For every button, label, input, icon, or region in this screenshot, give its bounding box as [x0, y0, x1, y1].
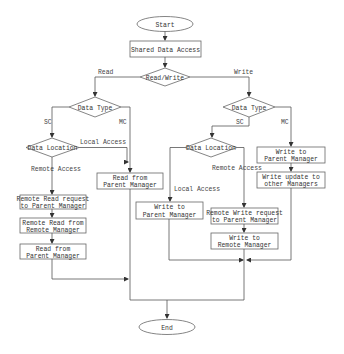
wpl-line1: Write to [154, 204, 185, 211]
rrm-line1: Remote Read from [22, 220, 84, 227]
wrm-line1: Write to [229, 235, 260, 242]
data-location-right-decision: Data Location [185, 138, 237, 157]
local-left-edge-label: Local Access [80, 139, 126, 146]
remote-write-request-box: Remote Write request to Parent Manager [206, 208, 283, 224]
read-write-decision: Read/Write [140, 68, 190, 86]
wpm-line1: Write to [276, 149, 307, 156]
wuo-line2: other Managers [264, 181, 318, 188]
shared-label: Shared Data Access [131, 47, 200, 54]
rrr-line2: to Parent Manager [20, 203, 85, 210]
data-type-right-decision: Data Type [223, 97, 275, 117]
read-parent-mc-line2: Parent Manager [103, 182, 157, 189]
rwr-line2: to Parent Manager [212, 217, 277, 224]
dt-left-label: Data Type [78, 105, 113, 112]
end-node: End [139, 320, 195, 335]
rwr-line1: Remote Write request [206, 210, 283, 217]
mc-left-edge-label: MC [119, 119, 127, 126]
rps-line1: Read from [36, 246, 71, 253]
read-parent-sc-box: Read from Parent Manager [20, 244, 86, 260]
rrm-line2: Remote Manager [26, 227, 80, 234]
end-label: End [161, 325, 173, 332]
remote-right-edge-label: Remote Access [212, 165, 262, 172]
write-parent-mc-box: Write to Parent Manager [257, 147, 325, 163]
write-update-others-box: Write update to other Managers [257, 172, 325, 188]
data-type-left-decision: Data Type [69, 97, 121, 117]
rps-line2: Parent Manager [26, 253, 80, 260]
dl-left-label: Data Location [28, 145, 78, 152]
wpm-line2: Parent Manager [264, 156, 318, 163]
dl-right-label: Data Location [186, 145, 236, 152]
write-remote-box: Write to Remote Manager [211, 233, 278, 249]
rw-label: Read/Write [146, 75, 185, 82]
remote-read-remote-box: Remote Read from Remote Manager [20, 218, 86, 234]
wuo-line1: Write update to [262, 174, 320, 181]
start-node: Start [137, 17, 193, 32]
read-edge-label: Read [98, 69, 114, 76]
sc-left-edge-label: SC [44, 119, 52, 126]
flowchart: Start Shared Data Access Read/Write Read… [0, 0, 344, 354]
start-label: Start [155, 22, 174, 29]
wrm-line2: Remote Manager [218, 242, 272, 249]
remote-read-request-box: Remote Read request to Parent Manager [17, 195, 90, 210]
mc-right-edge-label: MC [281, 119, 289, 126]
write-parent-local-box: Write to Parent Manager [136, 202, 203, 219]
write-edge-label: Write [234, 69, 253, 76]
shared-data-access-box: Shared Data Access [130, 41, 201, 57]
read-parent-mc-box: Read from Parent Manager [97, 173, 163, 189]
local-right-edge-label: Local Access [174, 186, 220, 193]
sc-right-edge-label: SC [236, 119, 244, 126]
dt-right-label: Data Type [232, 105, 267, 112]
data-location-left-decision: Data Location [26, 138, 79, 157]
remote-left-edge-label: Remote Access [31, 166, 81, 173]
wpl-line2: Parent Manager [143, 212, 197, 219]
read-parent-mc-line1: Read from [113, 175, 148, 182]
